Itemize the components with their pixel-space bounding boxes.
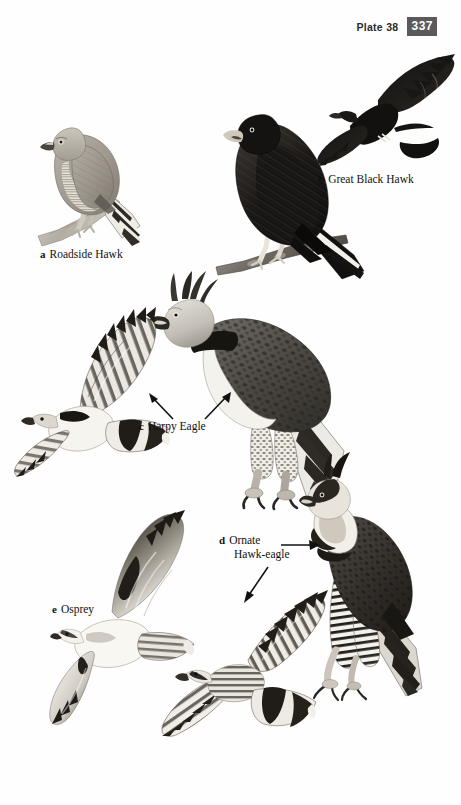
caption-key-a: a: [40, 248, 46, 260]
caption-name-roadside-hawk: Roadside Hawk: [50, 248, 123, 260]
ornate-flight-tail: [251, 687, 316, 727]
caption-name-harpy-eagle: Harpy Eagle: [148, 420, 206, 432]
caption-harpy-eagle: cHarpy Eagle: [139, 419, 206, 433]
caption-key-e: e: [52, 603, 57, 615]
page-number-badge: 337: [407, 17, 437, 36]
ornate-right-arrow: [281, 538, 321, 552]
caption-great-black-hawk: bGreat Black Hawk: [318, 172, 414, 186]
harpy-flight-lower-wing: [15, 431, 70, 477]
harpy-flight-upper-wing: [80, 307, 156, 417]
figure-great-black-hawk-flight: [316, 52, 461, 170]
caption-key-c: c: [139, 420, 144, 432]
harpy-left-arrow: [146, 392, 176, 422]
great-black-head: [238, 114, 281, 154]
harpy-right-arrow: [202, 390, 234, 422]
ornate-down-arrow: [240, 565, 274, 605]
plate-label: Plate 38: [356, 21, 398, 33]
caption-osprey: eOsprey: [52, 602, 94, 616]
caption-key-b: b: [318, 173, 324, 185]
roadside-head: [53, 128, 86, 161]
figure-roadside-hawk-perched: [28, 98, 168, 248]
caption-name-osprey: Osprey: [61, 603, 94, 615]
osprey-lower-wing: [50, 651, 95, 724]
caption-name-great-black-hawk: Great Black Hawk: [328, 173, 414, 185]
osprey-upper-wing: [112, 510, 185, 618]
osprey-tail: [138, 632, 194, 660]
caption-roadside-hawk: aRoadside Hawk: [40, 247, 123, 261]
figure-osprey-flight: [52, 508, 227, 738]
great-black-flight-lower-wing: [317, 125, 367, 166]
plate-header: Plate 38 337: [356, 17, 437, 36]
caption-name-ornate-line1: Ornate: [229, 534, 260, 546]
plate-page: Plate 38 337: [0, 0, 461, 805]
great-black-flight-tail: [394, 124, 439, 159]
